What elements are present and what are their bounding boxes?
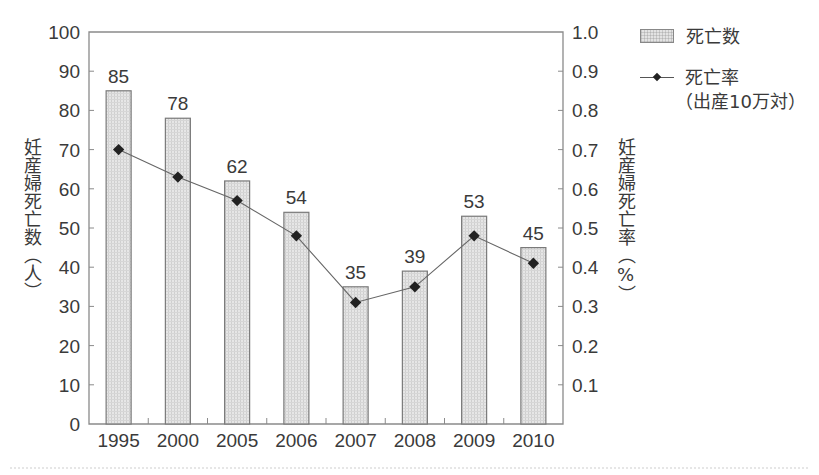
x-tick-label: 2006 (275, 430, 317, 451)
bar (402, 271, 427, 424)
bar-value-label: 39 (404, 246, 425, 267)
plot-frame (89, 32, 563, 424)
bar-value-label: 54 (286, 187, 308, 208)
bar (106, 91, 131, 424)
right-tick-label: 0.3 (572, 296, 598, 317)
bar-value-label: 85 (108, 66, 129, 87)
x-tick-label: 2008 (394, 430, 436, 451)
x-tick-label: 2010 (512, 430, 554, 451)
right-axis-title: 妊産婦死亡率（%） (614, 138, 636, 303)
legend-label-deaths: 死亡数 (686, 22, 740, 48)
bar (225, 181, 250, 424)
left-tick-label: 10 (59, 375, 80, 396)
right-tick-label: 0.2 (572, 336, 598, 357)
legend-item-rate: 死亡率 （出産10万対） (640, 66, 806, 114)
right-tick-label: 0.5 (572, 218, 598, 239)
left-tick-label: 80 (59, 100, 80, 121)
bar-value-label: 45 (523, 223, 544, 244)
bar-series: 8578625435395345 (106, 66, 546, 424)
plot-border (89, 32, 563, 424)
bar-value-label: 53 (464, 191, 485, 212)
right-tick-label: 1.0 (572, 22, 598, 43)
bar-value-label: 78 (167, 93, 188, 114)
right-tick-label: 0.6 (572, 179, 598, 200)
bottom-divider (10, 467, 809, 469)
left-tick-label: 70 (59, 140, 80, 161)
right-tick-label: 0.4 (572, 257, 599, 278)
bar (165, 118, 190, 424)
left-axis-title: 妊産婦死亡数（人） (20, 138, 42, 300)
x-tick-label: 2007 (334, 430, 376, 451)
left-tick-label: 90 (59, 61, 80, 82)
legend: 死亡数 死亡率 （出産10万対） (640, 22, 806, 114)
bar (284, 212, 309, 424)
right-tick-label: 0.9 (572, 61, 598, 82)
left-tick-label: 20 (59, 336, 80, 357)
right-axis: 0.10.20.30.40.50.60.70.80.91.0 (558, 22, 599, 396)
bar-value-label: 62 (227, 156, 248, 177)
left-tick-label: 60 (59, 179, 80, 200)
left-tick-label: 50 (59, 218, 80, 239)
left-tick-label: 30 (59, 296, 80, 317)
legend-label-rate-unit: （出産10万対） (675, 91, 806, 112)
line-marker-swatch-icon (640, 66, 674, 86)
right-tick-label: 0.1 (572, 375, 598, 396)
x-tick-label: 1995 (97, 430, 139, 451)
bar (462, 216, 487, 424)
left-tick-label: 40 (59, 257, 80, 278)
legend-item-deaths: 死亡数 (640, 22, 806, 48)
bar-value-label: 35 (345, 262, 366, 283)
bar-swatch-icon (640, 29, 674, 43)
left-tick-label: 0 (69, 414, 80, 435)
x-tick-label: 2000 (157, 430, 199, 451)
bar (521, 248, 546, 424)
x-tick-label: 2005 (216, 430, 258, 451)
left-axis: 0102030405060708090100 (48, 22, 94, 435)
right-tick-label: 0.8 (572, 100, 598, 121)
right-tick-label: 0.7 (572, 140, 598, 161)
x-tick-label: 2009 (453, 430, 495, 451)
left-tick-label: 100 (48, 22, 80, 43)
legend-label-rate: 死亡率 (685, 67, 739, 88)
